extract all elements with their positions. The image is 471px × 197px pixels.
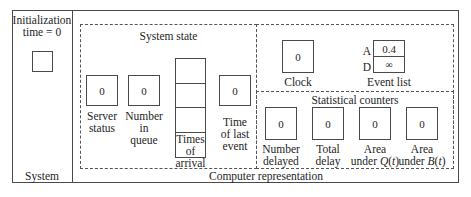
times-of-arrival-label-3: arrival (168, 157, 213, 169)
area-under-b-value: 0 (419, 118, 425, 130)
event-list-row-d: ∞ (373, 56, 405, 73)
times-of-arrival-label: Times of arrival (168, 133, 213, 169)
number-in-queue-label-1: Number (122, 110, 166, 122)
statistical-counters-title: Statistical counters (256, 94, 454, 106)
server-status-label: Server status (80, 110, 124, 134)
server-status-label-2: status (80, 122, 124, 134)
number-delayed-label: Number delayed (257, 143, 305, 167)
number-in-queue-value: 0 (141, 85, 147, 97)
number-delayed-box: 0 (265, 107, 297, 140)
init-title-line2: time = 0 (12, 26, 72, 38)
computer-panel-footer: Computer representation (73, 170, 459, 182)
total-delay-label-1: Total (304, 143, 352, 155)
area-under-b-label-2: under B(t) (394, 155, 450, 167)
clock-value: 0 (295, 51, 301, 63)
server-status-box: 0 (86, 75, 118, 106)
total-delay-label: Total delay (304, 143, 352, 167)
init-title-line1: Initialization (12, 14, 72, 26)
event-list-value-d: ∞ (385, 59, 392, 70)
system-empty-box (32, 51, 53, 72)
server-status-label-1: Server (80, 110, 124, 122)
number-in-queue-label: Number in queue (122, 110, 166, 146)
time-of-last-event-value: 0 (232, 85, 238, 97)
system-state-title: System state (80, 30, 257, 42)
column-divider (72, 10, 73, 183)
arrival-slot (175, 83, 206, 108)
event-list-value-a: 0.4 (382, 43, 396, 55)
time-of-last-event-label: Time of last event (213, 116, 257, 152)
area-under-q-box: 0 (359, 107, 391, 140)
area-under-b-label: Area under B(t) (394, 143, 450, 167)
clock-label: Clock (272, 76, 324, 88)
area-under-b-label-1: Area (394, 143, 450, 155)
number-delayed-label-1: Number (257, 143, 305, 155)
number-in-queue-label-2: in (122, 122, 166, 134)
system-panel-title: Initialization time = 0 (12, 14, 72, 38)
number-delayed-value: 0 (278, 118, 284, 130)
clock-box: 0 (282, 40, 314, 73)
time-of-last-event-label-2: of last (213, 128, 257, 140)
time-of-last-event-box: 0 (219, 75, 251, 106)
area-under-b-box: 0 (406, 107, 438, 140)
number-in-queue-label-3: queue (122, 134, 166, 146)
times-of-arrival-label-1: Times (168, 133, 213, 145)
event-list-row-a: 0.4 (373, 40, 405, 57)
event-list-key-a: A (362, 45, 372, 57)
arrival-slot (175, 107, 206, 133)
server-status-value: 0 (99, 85, 105, 97)
number-delayed-label-2: delayed (257, 155, 305, 167)
event-list-key-d: D (362, 61, 372, 73)
time-of-last-event-label-3: event (213, 140, 257, 152)
total-delay-box: 0 (312, 107, 344, 140)
times-of-arrival-label-2: of (168, 145, 213, 157)
area-under-q-value: 0 (372, 118, 378, 130)
system-panel-footer: System (12, 170, 72, 182)
event-list-label: Event list (355, 76, 423, 88)
time-of-last-event-label-1: Time (213, 116, 257, 128)
total-delay-label-2: delay (304, 155, 352, 167)
total-delay-value: 0 (325, 118, 331, 130)
number-in-queue-box: 0 (128, 75, 160, 106)
arrival-slot (175, 58, 206, 84)
